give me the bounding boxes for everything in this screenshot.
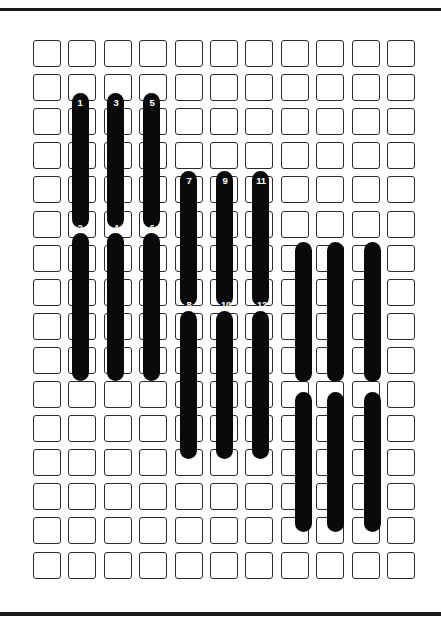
grid-cell [175, 483, 203, 510]
grid-cell [245, 517, 273, 544]
grid-cell [316, 142, 344, 169]
grid-cell [245, 552, 273, 579]
grid-cell [210, 40, 238, 67]
grid-cell [316, 40, 344, 67]
grid-cell [352, 552, 380, 579]
grid-cell [104, 552, 132, 579]
grid-cell [33, 313, 61, 340]
bar-13 [295, 242, 312, 382]
grid-cell [387, 313, 415, 340]
grid-cell [387, 108, 415, 135]
grid-cell [33, 211, 61, 238]
bar-3 [107, 93, 124, 228]
grid-cell [139, 552, 167, 579]
grid-cell [210, 74, 238, 101]
grid-cell [175, 108, 203, 135]
grid-cell [281, 108, 309, 135]
grid-cell [387, 176, 415, 203]
grid-cell [33, 483, 61, 510]
grid-cell [33, 142, 61, 169]
grid-cell [387, 517, 415, 544]
grid-cell [210, 552, 238, 579]
bar-10 [216, 311, 233, 459]
grid-cell [387, 142, 415, 169]
grid-cell [104, 40, 132, 67]
grid-cell [210, 517, 238, 544]
grid-cell [316, 552, 344, 579]
grid-cell [387, 415, 415, 442]
grid-cell [245, 483, 273, 510]
bar-6 [143, 233, 160, 381]
grid-cell [281, 74, 309, 101]
grid-cell [387, 483, 415, 510]
grid-cell [175, 74, 203, 101]
grid-cell [316, 74, 344, 101]
grid-cell [175, 552, 203, 579]
grid-cell [387, 40, 415, 67]
grid-cell [387, 381, 415, 408]
grid-cell [33, 415, 61, 442]
grid-cell [33, 279, 61, 306]
bar-17 [364, 242, 381, 382]
grid-cell [139, 40, 167, 67]
grid-cell [68, 517, 96, 544]
grid-cell [104, 449, 132, 476]
grid-cell [139, 449, 167, 476]
grid-cell [104, 381, 132, 408]
grid-cell [33, 347, 61, 374]
grid-cell [68, 483, 96, 510]
grid-cell [316, 108, 344, 135]
grid-cell [33, 517, 61, 544]
bar-18 [364, 392, 381, 532]
grid-cell [245, 40, 273, 67]
grid-cell [68, 381, 96, 408]
grid-cell [139, 381, 167, 408]
grid-cell [352, 142, 380, 169]
grid-cell [352, 108, 380, 135]
grid-cell [33, 40, 61, 67]
grid-cell [104, 517, 132, 544]
grid-cell [175, 40, 203, 67]
bar-12 [252, 311, 269, 459]
grid-cell [33, 552, 61, 579]
grid-cell [104, 415, 132, 442]
grid-cell [210, 108, 238, 135]
grid-cell [316, 211, 344, 238]
grid-cell [139, 517, 167, 544]
grid-cell [210, 483, 238, 510]
grid-cell [68, 415, 96, 442]
bar-4 [107, 233, 124, 381]
grid-cell [33, 176, 61, 203]
bar-1 [72, 93, 89, 228]
grid-cell [316, 176, 344, 203]
bar-2 [72, 233, 89, 381]
grid-cell [387, 347, 415, 374]
bar-8 [180, 311, 197, 459]
bar-7 [180, 171, 197, 306]
bar-16 [327, 392, 344, 532]
grid-cell [139, 415, 167, 442]
grid-cell [281, 40, 309, 67]
grid-cell [387, 211, 415, 238]
grid-cell [33, 108, 61, 135]
patent-figure: 123456789101112 [0, 0, 441, 626]
grid-cell [68, 449, 96, 476]
grid-cell [387, 449, 415, 476]
grid-cell [210, 142, 238, 169]
grid-cell [352, 176, 380, 203]
grid-cell [245, 74, 273, 101]
bottom-page-rule [0, 612, 441, 616]
grid-cell [352, 40, 380, 67]
grid-cell [281, 552, 309, 579]
grid-cell [281, 211, 309, 238]
grid-cell [281, 142, 309, 169]
grid-cell [33, 381, 61, 408]
top-page-rule [0, 8, 441, 11]
grid-cell [175, 142, 203, 169]
grid-cell [245, 142, 273, 169]
grid-cell [245, 108, 273, 135]
grid-cell [68, 552, 96, 579]
grid-cell [68, 40, 96, 67]
grid-cell [387, 74, 415, 101]
bar-15 [327, 242, 344, 382]
